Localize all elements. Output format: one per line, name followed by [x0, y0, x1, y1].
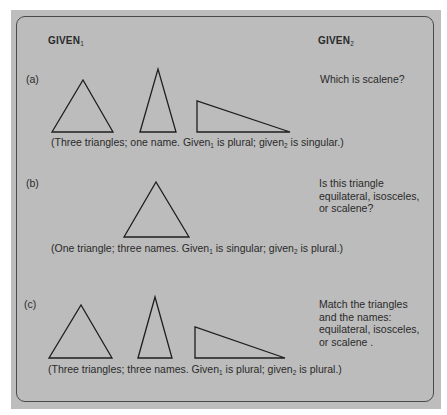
section-c-caption: (Three triangles; three names. Given1 is… — [48, 363, 342, 380]
question-line: Match the triangles — [319, 298, 419, 311]
caption-text: is plural.) — [298, 242, 344, 254]
section-a-label: (a) — [26, 73, 39, 86]
question-line: or scalene . — [319, 336, 419, 349]
section-a-caption: (Three triangles; one name. Given1 is pl… — [51, 136, 344, 153]
caption-text: (One triangle; three names. Given — [51, 242, 209, 254]
question-line: Which is scalene? — [320, 73, 405, 86]
caption-text: is plural; given — [214, 136, 284, 148]
triangle-a-isosceles — [140, 69, 176, 132]
section-b-question: Is this triangle equilateral, isosceles,… — [319, 177, 419, 215]
caption-text: is plural.) — [296, 363, 342, 375]
question-line: equilateral, isosceles, — [319, 323, 419, 336]
caption-text: (Three triangles; one name. Given — [51, 136, 210, 148]
caption-text: is singular; given — [213, 242, 294, 254]
section-b-label: (b) — [26, 177, 39, 190]
triangle-c-equilateral — [49, 305, 112, 358]
question-line: equilateral, isosceles, — [319, 190, 419, 203]
caption-text: is plural; given — [223, 363, 293, 375]
triangle-c-isosceles — [138, 297, 172, 358]
caption-text: is singular.) — [288, 136, 344, 148]
section-b-caption: (One triangle; three names. Given1 is si… — [51, 242, 343, 259]
question-line: and the names: — [319, 311, 419, 324]
question-line: or scalene? — [319, 202, 419, 215]
section-a-question: Which is scalene? — [320, 73, 405, 86]
section-c-label: (c) — [24, 298, 36, 311]
section-c-question: Match the triangles and the names: equil… — [319, 298, 419, 348]
triangle-b-equilateral — [124, 182, 189, 237]
triangle-c-right-scalene — [195, 327, 285, 358]
triangle-a-equilateral — [52, 80, 113, 132]
question-line: Is this triangle — [319, 177, 419, 190]
triangle-a-right-scalene — [197, 101, 290, 132]
caption-text: (Three triangles; three names. Given — [48, 363, 219, 375]
